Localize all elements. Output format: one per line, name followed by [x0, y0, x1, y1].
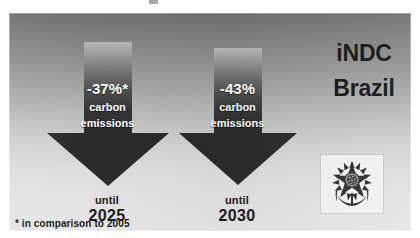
title-line-brazil: Brazil [314, 76, 411, 102]
brazil-coat-of-arms-icon [321, 155, 383, 213]
arrow-shaft [214, 48, 262, 135]
slide-title: iNDC Brazil [314, 41, 411, 102]
presentation-slide: -37%* carbon emissions until 2025 -43% c… [9, 13, 411, 231]
until-label-2030: until [177, 194, 297, 206]
arrow-head-icon [179, 133, 297, 185]
slide-canvas: -37%* carbon emissions until 2025 -43% c… [0, 0, 420, 238]
down-arrow-2025: -37%* carbon emissions [107, 42, 108, 43]
until-label-2025: until [47, 194, 167, 206]
title-line-indc: iNDC [314, 41, 411, 67]
arrow-head-icon [47, 133, 169, 186]
footnote-comparison-baseline: * in comparison to 2005 [15, 218, 130, 229]
down-arrow-2030: -43% carbon emissions [237, 48, 238, 49]
cropped-artifact [149, 0, 158, 4]
deadline-block-2030: until 2030 [177, 194, 297, 225]
year-value-2030: 2030 [177, 207, 297, 225]
arrow-shaft [84, 42, 132, 135]
